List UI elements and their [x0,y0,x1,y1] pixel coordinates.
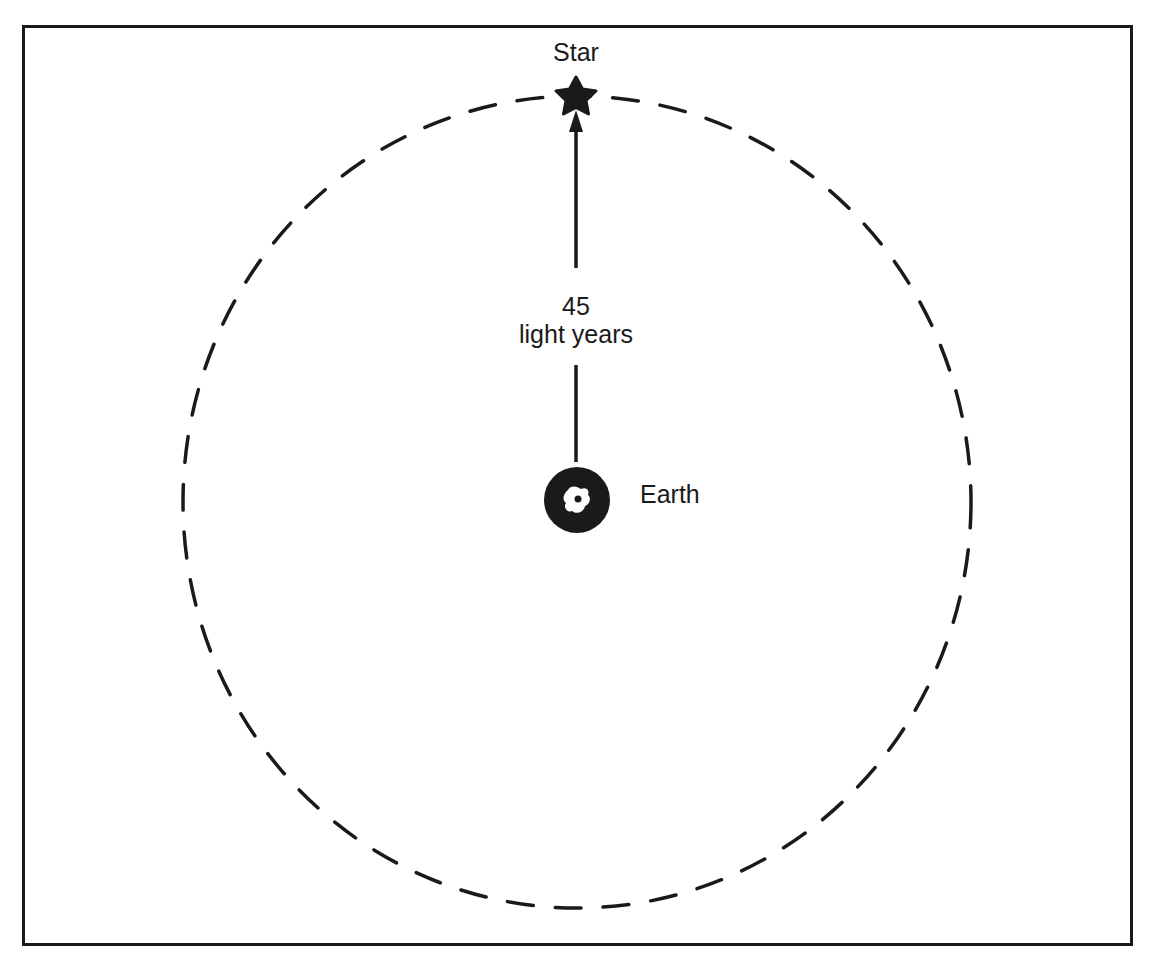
earth-label: Earth [640,480,700,508]
distance-label: 45 light years [476,292,676,348]
arrowhead-icon [569,110,583,132]
earth-globe-icon [544,467,610,533]
star-icon [556,77,596,114]
star-label: Star [526,38,626,66]
diagram-canvas [0,0,1153,966]
distance-value: 45 [476,292,676,320]
distance-unit: light years [476,320,676,348]
